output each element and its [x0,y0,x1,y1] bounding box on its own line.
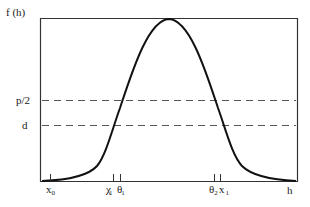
tick-label-theta1: θ1 [117,183,125,197]
dashed-lines [42,101,296,126]
y-axis-label: f (h) [6,6,26,19]
x-axis-label: h [287,184,293,196]
p-half-label: p/2 [16,94,30,106]
d-label: d [22,119,28,131]
tick-label-x0: x0 [46,183,56,197]
tick-label-x1: x1 [219,183,230,197]
tick-label-theta2: θ2 [209,183,218,197]
x-tick-labels: x0 χ1 θ1 θ2 x1 [46,183,230,197]
density-diagram: f (h) p/2 d x0 χ1 θ1 θ2 x1 h [0,0,310,207]
tick-label-chi1: χ1 [105,183,113,197]
